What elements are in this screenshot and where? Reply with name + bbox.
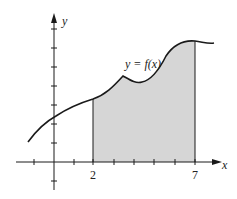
x-axis-label: x xyxy=(221,158,228,172)
y-axis-arrow-icon xyxy=(51,13,57,23)
area-under-curve-chart: y x 2 7 y = f(x) xyxy=(0,0,237,199)
x-tick-label-2: 2 xyxy=(90,168,96,182)
x-tick-label-7: 7 xyxy=(192,168,198,182)
curve-label: y = f(x) xyxy=(124,57,161,71)
x-axis-arrow-icon xyxy=(212,159,222,165)
y-axis-label: y xyxy=(61,14,68,28)
